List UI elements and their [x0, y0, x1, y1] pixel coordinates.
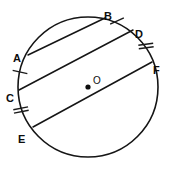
- point-label-e: E: [18, 133, 25, 145]
- center-group: O: [85, 75, 101, 90]
- chords-group: [19, 18, 152, 127]
- arc-tick-DF-stroke: [138, 43, 153, 45]
- point-label-f: F: [153, 64, 160, 76]
- point-label-a: A: [13, 52, 21, 64]
- arc-tick-DF: [138, 43, 153, 49]
- point-label-b: B: [104, 10, 112, 22]
- center-dot: [85, 84, 90, 89]
- chord-EF: [33, 62, 152, 127]
- center-label: O: [93, 75, 101, 86]
- figure-canvas: O ABCDEF: [0, 0, 170, 170]
- arc-tick-CE: [13, 107, 28, 113]
- point-label-d: D: [135, 28, 143, 40]
- geometry-figure: O ABCDEF: [0, 0, 170, 170]
- point-label-c: C: [6, 92, 14, 104]
